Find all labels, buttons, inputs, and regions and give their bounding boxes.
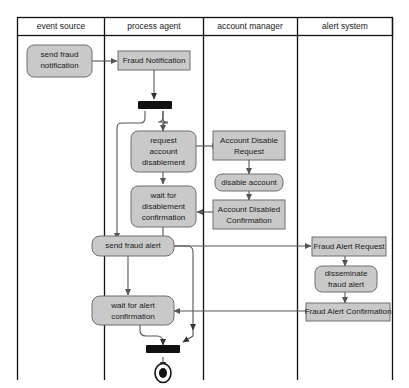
node-send-fraud-notification-line1: send fraud bbox=[41, 50, 79, 59]
edge-fork-to-request-account-disablement bbox=[163, 111, 168, 131]
node-request-account-disablement-line1: request bbox=[150, 136, 177, 145]
node-send-fraud-notification[interactable]: send fraud notification bbox=[27, 45, 92, 77]
node-fraud-notification-label: Fraud Notification bbox=[123, 56, 186, 65]
node-account-disable-request[interactable]: Account Disable Request bbox=[213, 131, 285, 160]
lane-title-alert-system: alert system bbox=[322, 21, 368, 31]
final-node bbox=[155, 364, 171, 383]
diagram-svg: event source process agent account manag… bbox=[0, 0, 409, 388]
lane-title-process-agent: process agent bbox=[127, 21, 181, 31]
node-disable-account-label: disable account bbox=[221, 178, 277, 187]
node-send-fraud-alert-label: send fraud alert bbox=[105, 241, 161, 250]
node-wait-for-alert-confirmation[interactable]: wait for alert confirmation bbox=[92, 296, 174, 325]
node-request-account-disablement-line3: disablement bbox=[142, 158, 186, 167]
edge-wait-alert-to-join bbox=[140, 324, 163, 345]
node-request-account-disablement-line2: account bbox=[149, 147, 178, 156]
activity-diagram-canvas: event source process agent account manag… bbox=[0, 0, 409, 388]
edge-join-right-entry bbox=[183, 330, 193, 342]
node-wait-for-disablement-confirmation-line2: disablement bbox=[142, 202, 186, 211]
node-wait-for-disablement-confirmation[interactable]: wait for disablement confirmation bbox=[131, 186, 196, 227]
node-disseminate-fraud-alert-line1: disseminate bbox=[325, 269, 368, 278]
fork-bar bbox=[138, 101, 172, 109]
node-send-fraud-alert[interactable]: send fraud alert bbox=[92, 236, 174, 256]
lane-title-account-manager: account manager bbox=[217, 21, 283, 31]
node-wait-for-alert-confirmation-line1: wait for alert bbox=[110, 301, 155, 310]
node-fraud-alert-request[interactable]: Fraud Alert Request bbox=[312, 237, 386, 256]
node-account-disabled-confirmation[interactable]: Account Disabled Confirmation bbox=[213, 200, 285, 229]
node-account-disabled-confirmation-line1: Account Disabled bbox=[218, 205, 280, 214]
node-account-disable-request-line2: Request bbox=[234, 147, 265, 156]
node-disseminate-fraud-alert-line2: fraud alert bbox=[328, 280, 365, 289]
node-request-account-disablement[interactable]: request account disablement bbox=[131, 131, 196, 172]
node-disable-account[interactable]: disable account bbox=[215, 174, 283, 191]
node-disseminate-fraud-alert[interactable]: disseminate fraud alert bbox=[315, 266, 377, 292]
lane-title-event-source: event source bbox=[37, 21, 86, 31]
node-wait-for-alert-confirmation-line2: confirmation bbox=[111, 312, 155, 321]
node-account-disabled-confirmation-line2: Confirmation bbox=[226, 216, 271, 225]
node-wait-for-disablement-confirmation-line3: confirmation bbox=[142, 213, 186, 222]
join-bar bbox=[146, 345, 180, 353]
node-send-fraud-notification-line2: notification bbox=[40, 61, 78, 70]
node-fraud-alert-confirmation[interactable]: Fraud Alert Confirmation bbox=[305, 303, 392, 321]
node-fraud-alert-confirmation-label: Fraud Alert Confirmation bbox=[305, 307, 392, 316]
node-fraud-notification[interactable]: Fraud Notification bbox=[118, 51, 190, 70]
node-wait-for-disablement-confirmation-line1: wait for bbox=[150, 191, 177, 200]
node-fraud-alert-request-label: Fraud Alert Request bbox=[313, 242, 385, 251]
node-account-disable-request-line1: Account Disable bbox=[220, 136, 278, 145]
